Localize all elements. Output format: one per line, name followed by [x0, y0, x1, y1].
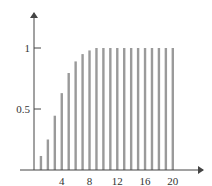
bar-1	[40, 156, 42, 170]
bar-9	[95, 48, 97, 170]
bar-17	[151, 48, 153, 170]
x-tick-label: 12	[112, 175, 123, 186]
bar-5	[68, 73, 70, 170]
bar-18	[158, 48, 160, 170]
y-tick-label: 0.5	[16, 103, 30, 115]
x-tick-label: 4	[59, 175, 65, 186]
bar-19	[165, 48, 167, 170]
bar-6	[74, 61, 76, 170]
bar-7	[81, 54, 83, 170]
bar-2	[47, 140, 49, 171]
y-ticks-group: 0.51	[16, 42, 41, 115]
bar-16	[144, 48, 146, 170]
bar-20	[172, 48, 174, 170]
bar-8	[88, 50, 90, 170]
y-tick-label: 1	[25, 42, 31, 54]
bars-group	[40, 48, 174, 170]
x-tick-label: 8	[87, 175, 93, 186]
bar-chart: 0.51 48121620	[0, 0, 212, 186]
x-tick-label: 20	[167, 175, 179, 186]
bar-12	[116, 48, 118, 170]
bar-14	[130, 48, 132, 170]
bar-11	[109, 48, 111, 170]
x-tick-label: 16	[140, 175, 152, 186]
bar-13	[123, 48, 125, 170]
bar-3	[54, 116, 56, 170]
x-ticks-group: 48121620	[59, 175, 179, 186]
bar-4	[61, 93, 63, 170]
bar-10	[102, 48, 104, 170]
bar-15	[137, 48, 139, 170]
